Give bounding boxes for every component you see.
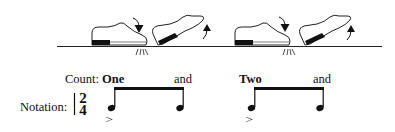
count-beat-one: One: [102, 73, 124, 86]
accent-mark: >: [245, 114, 252, 125]
count-beat-and-1: and: [174, 73, 192, 86]
notation-label: Notation:: [20, 101, 67, 114]
impact-lines-icon: [283, 49, 295, 55]
count-beat-and-2: and: [313, 73, 331, 86]
shoe-raised-2: [300, 15, 351, 45]
heel-block: [235, 40, 253, 45]
eighth-note-pair-1: [107, 87, 185, 112]
down-arrow-icon: [279, 17, 290, 32]
eighth-note-pair-2: [247, 87, 325, 112]
count-beat-two: Two: [239, 73, 262, 86]
shoe-raised-1: [153, 15, 204, 45]
accent-mark: >: [105, 114, 112, 125]
impact-lines-icon: [136, 49, 148, 55]
time-signature: 2 4: [77, 92, 89, 116]
count-label: Count:: [65, 73, 99, 86]
heel-block: [92, 40, 110, 45]
down-arrow-icon: [133, 18, 144, 33]
up-arrow-icon: [203, 24, 211, 39]
time-signature-bottom: 4: [77, 104, 89, 116]
up-arrow-icon: [347, 25, 355, 40]
